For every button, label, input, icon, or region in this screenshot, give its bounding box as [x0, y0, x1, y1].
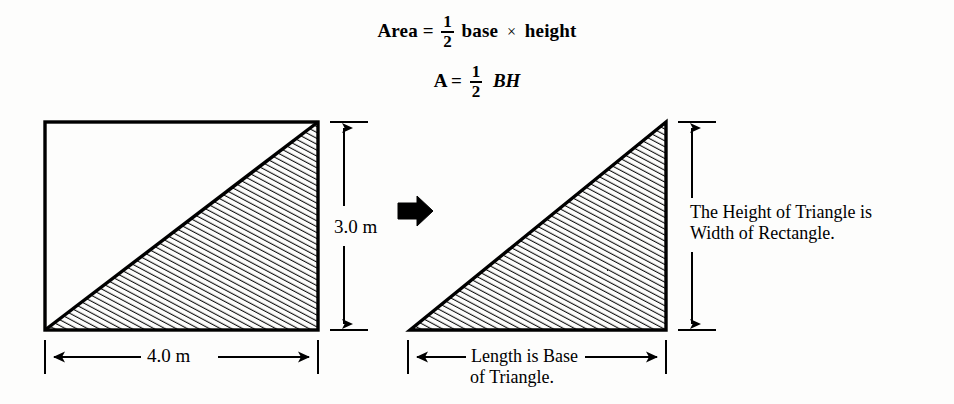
right-height-note-line2: Width of Rectangle. [690, 223, 872, 244]
left-diagram-group [45, 122, 318, 330]
left-height-label: 3.0 m [334, 216, 377, 238]
figure-canvas: Area = 1 2 base × height A = 1 2 BH [0, 0, 954, 404]
transform-arrow-icon [398, 196, 433, 226]
left-width-label: 4.0 m [142, 345, 195, 367]
right-arrow-icon [398, 196, 433, 226]
right-base-note-line1: Length is Base [467, 346, 582, 367]
right-base-note-line2: of Triangle. [470, 367, 554, 388]
right-height-note: The Height of Triangle is Width of Recta… [690, 202, 872, 244]
right-diagram-group [410, 122, 666, 330]
right-triangle-shape [410, 122, 666, 330]
right-height-note-line1: The Height of Triangle is [690, 202, 872, 223]
